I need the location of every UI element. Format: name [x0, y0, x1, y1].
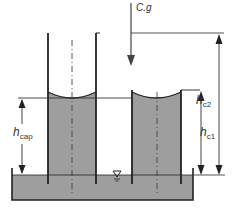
arrow-down-icon [19, 165, 26, 174]
arrow-up-icon [216, 34, 223, 44]
capillary-diagram: C.g hcap hc2 hc1 [0, 0, 242, 211]
arrow-up-icon [19, 99, 26, 108]
arrow-down-icon [198, 165, 205, 175]
cg-arrow-head-icon [127, 55, 135, 66]
right-tube-liquid [132, 92, 181, 175]
h-c2-label: hc2 [196, 93, 212, 109]
cg-label: C.g [136, 2, 152, 13]
reservoir-liquid [12, 175, 193, 200]
arrow-down-icon [216, 165, 223, 175]
